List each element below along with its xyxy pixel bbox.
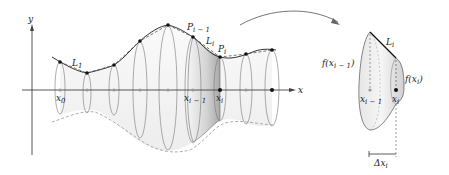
curve-point (85, 71, 89, 75)
partition-point-x-i (218, 88, 222, 92)
point-p-i (218, 55, 222, 59)
curve-point (112, 63, 116, 67)
curve-point (58, 60, 62, 64)
x-axis-arrow (289, 88, 296, 92)
curve-point (138, 39, 142, 43)
label-f-x-i-minus-1: f(xi − 1) (321, 58, 355, 70)
partition-point (112, 88, 115, 91)
y-axis-label: y (27, 14, 34, 24)
center-x-i (394, 88, 398, 92)
partition-point (138, 88, 141, 91)
partition-point (85, 88, 88, 91)
y-axis-arrow (30, 24, 34, 31)
label-P-i: Pi (217, 44, 226, 56)
curved-arrow (240, 11, 338, 25)
partition-point (244, 88, 247, 91)
curve-point (166, 23, 170, 27)
center-x-i-minus-1 (368, 88, 371, 91)
label-L-i-right: Li (385, 37, 394, 49)
surface-of-revolution-diagram: y x L1 Pi − 1 Li Pi x0 xi − 1 xi Li f(xi… (0, 0, 449, 175)
partition-point (58, 88, 61, 91)
label-f-x-i: f(xi) (404, 74, 423, 86)
partition-point (270, 88, 274, 92)
label-L-i: Li (205, 36, 214, 48)
curve-point (270, 48, 274, 52)
curve-point (244, 52, 248, 56)
partition-point-x-i-minus-1 (191, 88, 194, 91)
right-figure: Li f(xi − 1) f(xi) xi − 1 xi Δxi (321, 32, 423, 170)
x-axis-label: x (298, 85, 303, 95)
left-figure: y x L1 Pi − 1 Li Pi x0 xi − 1 xi (22, 14, 303, 155)
enlarged-frustum (359, 32, 404, 130)
point-p-i-minus-1 (191, 35, 195, 39)
label-delta-x-i: Δxi (373, 158, 388, 170)
partition-point (166, 88, 169, 91)
label-P-i-minus-1: Pi − 1 (186, 22, 210, 34)
